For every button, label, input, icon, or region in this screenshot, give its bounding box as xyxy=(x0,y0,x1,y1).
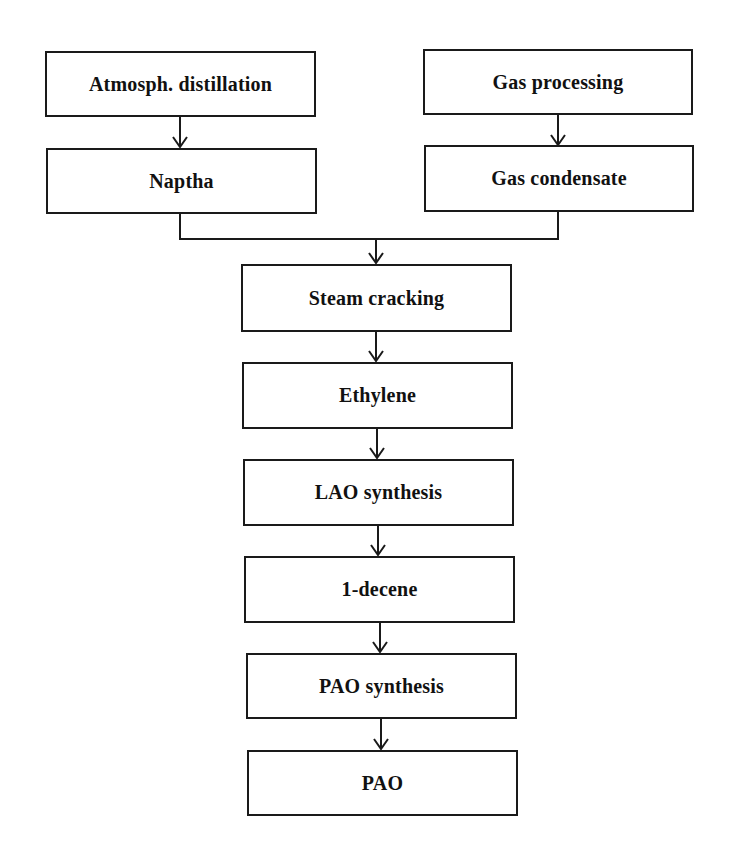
node-label: LAO synthesis xyxy=(315,481,443,504)
connector-lines xyxy=(0,0,730,864)
node-1-decene: 1-decene xyxy=(244,556,515,623)
node-pao-synthesis: PAO synthesis xyxy=(246,653,517,719)
node-label: Ethylene xyxy=(339,384,416,407)
node-label: Gas condensate xyxy=(491,167,627,190)
node-gas-processing: Gas processing xyxy=(423,49,693,115)
node-ethylene: Ethylene xyxy=(242,362,513,429)
node-label: Naptha xyxy=(149,170,214,193)
node-label: PAO xyxy=(362,772,403,795)
node-naptha: Naptha xyxy=(46,148,317,214)
node-label: Atmosph. distillation xyxy=(89,73,272,96)
merge-connector xyxy=(180,211,558,239)
node-pao: PAO xyxy=(247,750,518,816)
node-lao-synthesis: LAO synthesis xyxy=(243,459,514,526)
node-atmospheric-distillation: Atmosph. distillation xyxy=(45,51,316,117)
node-gas-condensate: Gas condensate xyxy=(424,145,694,212)
node-label: Gas processing xyxy=(493,71,624,94)
node-label: Steam cracking xyxy=(309,287,445,310)
node-label: PAO synthesis xyxy=(319,675,444,698)
node-label: 1-decene xyxy=(341,578,417,601)
node-steam-cracking: Steam cracking xyxy=(241,264,512,332)
